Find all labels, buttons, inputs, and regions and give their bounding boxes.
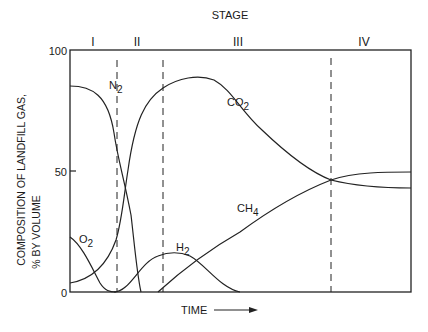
x-axis-label: TIME (181, 304, 207, 316)
h2-label: H2 (176, 241, 190, 257)
landfill-gas-chart: STAGE I II III IV 100 50 0 COMPOSITION O… (0, 0, 428, 332)
stage-label-4: IV (358, 35, 369, 49)
h2-curve (114, 253, 240, 292)
y-axis-label-line1: COMPOSITION OF LANDFILL GAS, (15, 94, 27, 266)
y-tick-50: 50 (55, 166, 67, 178)
stage-label-3: III (233, 35, 243, 49)
stage-label-1: I (91, 35, 94, 49)
ch4-label: CH4 (237, 202, 259, 218)
o2-label: O2 (79, 233, 94, 249)
ch4-curve (158, 172, 411, 292)
n2-label: N2 (109, 79, 123, 95)
co2-curve (70, 77, 411, 283)
y-tick-0: 0 (61, 287, 67, 299)
y-axis-label-line2: % BY VOLUME (30, 195, 42, 268)
time-arrow-icon (249, 307, 258, 313)
co2-label: CO2 (227, 96, 250, 112)
y-tick-100: 100 (49, 45, 67, 57)
stage-title: STAGE (212, 9, 248, 21)
stage-label-2: II (134, 35, 141, 49)
